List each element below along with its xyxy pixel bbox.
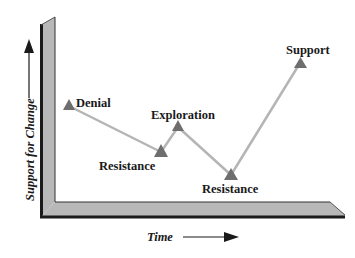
label-support: Support	[286, 43, 331, 57]
triangle-marker-icon	[63, 99, 75, 110]
up-arrow-icon	[24, 39, 34, 53]
label-resistance-2: Resistance	[202, 182, 259, 196]
x-axis-label-group: Time	[147, 230, 239, 244]
y-axis-bar	[41, 17, 55, 217]
label-resistance-1: Resistance	[99, 159, 156, 173]
x-axis-bar	[41, 202, 345, 217]
y-axis-label-group: Support for Change	[23, 39, 37, 201]
label-exploration: Exploration	[151, 108, 215, 122]
right-arrow-icon	[224, 232, 239, 242]
label-denial: Denial	[76, 96, 111, 110]
triangle-marker-icon	[294, 57, 307, 68]
y-axis-label: Support for Change	[23, 98, 37, 201]
change-curve-diagram: Support for Change Time Denial Resistanc…	[0, 0, 355, 258]
x-axis-label: Time	[147, 230, 173, 244]
